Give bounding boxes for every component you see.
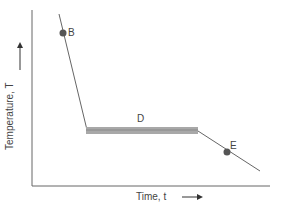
point-b-label: B [68,27,75,38]
y-axis-label: Temperature, T [4,82,15,150]
point-e-label: E [230,140,237,151]
point-b [60,30,67,37]
segment-d-label: D [137,113,144,124]
x-axis-label: Time, t [136,191,166,202]
temperature-time-diagram [0,0,282,210]
